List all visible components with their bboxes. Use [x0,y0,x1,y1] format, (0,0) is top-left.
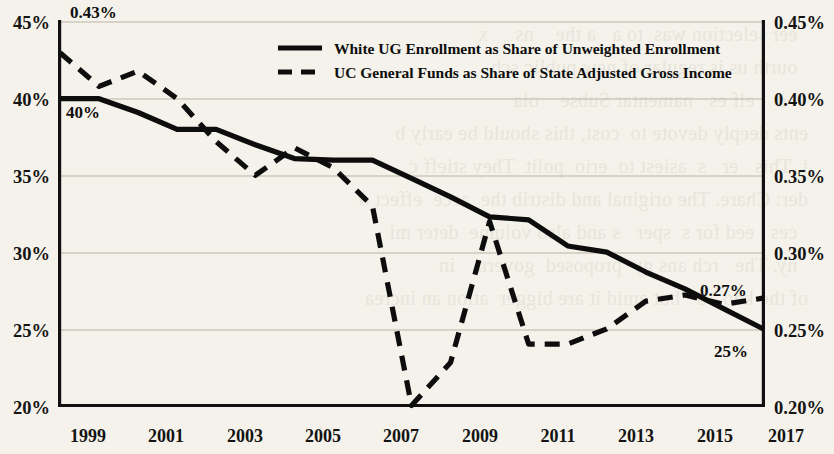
x-tick-2015: 2015 [697,426,733,446]
chart-legend: White UG Enrollment as Share of Unweight… [278,40,732,81]
x-tick-2011: 2011 [540,426,575,446]
left-tick-25: 25% [13,321,50,341]
right-tick-045: 0.45% [774,13,825,33]
x-tick-2013: 2013 [618,426,654,446]
x-tick-2009: 2009 [462,426,498,446]
x-tick-2005: 2005 [305,426,341,446]
annotation-start-solid: 40% [66,103,100,122]
annotation-start-dashed: 0.43% [70,3,117,22]
right-tick-020: 0.20% [774,398,825,418]
series-line-white-ug-enrollment [60,99,763,329]
right-tick-035: 0.35% [774,167,825,187]
legend-label-white-ug-enrollment: White UG Enrollment as Share of Unweight… [334,40,721,57]
right-tick-030: 0.30% [774,244,825,264]
left-tick-20: 20% [13,398,50,418]
right-axis-ticks: 0.45% 0.40% 0.35% 0.30% 0.25% 0.20% [774,13,825,418]
series-line-uc-general-funds [60,53,763,406]
left-tick-45: 45% [13,13,50,33]
right-tick-025: 0.25% [774,321,825,341]
left-tick-30: 30% [13,244,50,264]
x-tick-1999: 1999 [70,426,106,446]
line-chart: 45% 40% 35% 30% 25% 20% 0.45% 0.40% 0.35… [0,0,834,454]
left-axis-ticks: 45% 40% 35% 30% 25% 20% [13,13,50,418]
x-tick-2003: 2003 [227,426,263,446]
annotation-end-dashed: 0.27% [700,281,747,300]
right-tick-040: 0.40% [774,90,825,110]
chart-container: eer selection was to a a the ns x ourth … [0,0,834,454]
x-tick-2017: 2017 [768,426,804,446]
left-tick-35: 35% [13,167,50,187]
x-axis-ticks: 1999 2001 2003 2005 2007 2009 2011 2013 … [70,426,804,446]
x-tick-2001: 2001 [148,426,184,446]
x-tick-2007: 2007 [383,426,419,446]
legend-label-uc-general-funds: UC General Funds as Share of State Adjus… [334,64,732,81]
annotation-end-solid: 25% [714,342,748,361]
left-tick-40: 40% [13,90,50,110]
